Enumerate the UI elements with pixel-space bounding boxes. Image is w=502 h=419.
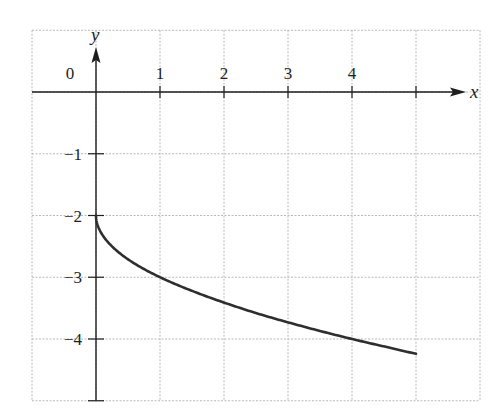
y-tick-label: −1	[64, 145, 82, 164]
y-tick-label: −3	[64, 268, 82, 287]
y-axis-label: y	[89, 24, 100, 45]
y-tick-label: −4	[64, 330, 83, 349]
x-tick-label: 3	[284, 64, 293, 83]
y-tick-label: −2	[64, 207, 82, 226]
data-curve	[96, 216, 416, 354]
x-tick-label: 2	[220, 64, 229, 83]
tick-labels: 01234−1−2−3−4	[64, 64, 357, 349]
x-tick-label: 4	[348, 64, 357, 83]
chart: 01234−1−2−3−4 x y	[0, 0, 502, 419]
x-tick-label: 1	[156, 64, 165, 83]
ticks	[88, 86, 416, 401]
x-tick-label: 0	[66, 64, 75, 83]
x-axis-label: x	[469, 81, 479, 102]
